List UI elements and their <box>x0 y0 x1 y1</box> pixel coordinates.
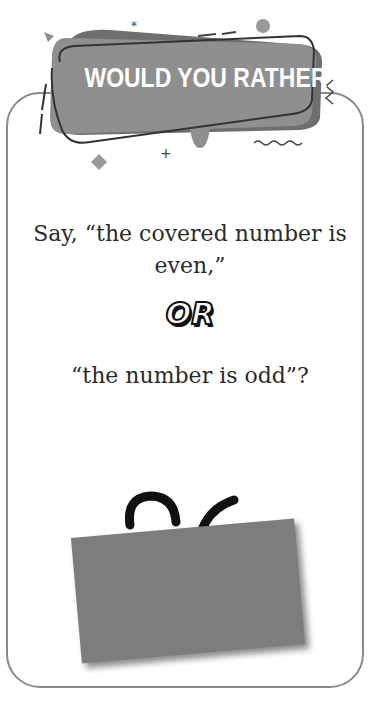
cover-card <box>71 518 305 663</box>
svg-text:*: * <box>131 19 137 33</box>
option-b-text: “the number is odd”? <box>20 360 360 392</box>
banner-title: WOULD YOU RATHER <box>85 62 290 94</box>
or-separator: OR <box>140 296 240 331</box>
svg-text:+: + <box>160 145 172 161</box>
option-a-text: Say, “the covered number is even,” <box>20 218 360 282</box>
